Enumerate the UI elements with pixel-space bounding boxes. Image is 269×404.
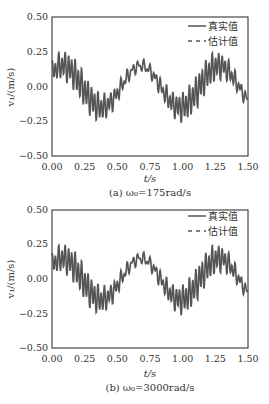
legend-entry-estimate: 估计值 [208, 35, 238, 47]
x-tick: 0.25 [74, 161, 95, 172]
x-tick: 1.25 [205, 353, 226, 364]
x-tick: 1.00 [172, 161, 193, 172]
legend-b: 真实值 估计值 [188, 210, 238, 237]
x-tick: 1.00 [172, 353, 193, 364]
x-tick: 0.75 [139, 353, 160, 364]
chart-panel-a: 0.50 0.25 0.00 −0.25 −0.50 0.00 0.25 0.5… [5, 11, 259, 198]
x-tick: 0.25 [74, 353, 95, 364]
caption-b: (b) ω₀=3000rad/s [105, 382, 194, 393]
y-ticks-b: 0.50 0.25 0.00 −0.25 −0.50 [19, 204, 48, 353]
series-line-a [52, 52, 248, 122]
y-tick: −0.50 [19, 342, 48, 353]
y-tick: −0.50 [19, 150, 48, 161]
y-axis-label-a: v₁/(m/s) [5, 68, 16, 108]
x-ticks-b: 0.00 0.25 0.50 0.75 1.00 1.25 1.50 [41, 353, 258, 364]
x-tick: 1.50 [237, 353, 258, 364]
y-tick: −0.25 [19, 115, 48, 126]
x-tick: 0.00 [41, 353, 62, 364]
x-tick: 0.50 [107, 353, 128, 364]
figure: 0.50 0.25 0.00 −0.25 −0.50 0.00 0.25 0.5… [0, 0, 269, 404]
chart-panel-b: 0.50 0.25 0.00 −0.25 −0.50 0.00 0.25 0.5… [5, 204, 259, 393]
legend-entry-estimate: 估计值 [208, 225, 238, 237]
x-ticks-a: 0.00 0.25 0.50 0.75 1.00 1.25 1.50 [41, 161, 258, 172]
caption-a: (a) ω₀=175rad/s [109, 187, 191, 198]
y-axis-label-b: v₁/(m/s) [5, 260, 16, 300]
legend-entry-true: 真实值 [208, 20, 238, 32]
series-line-b [52, 245, 248, 315]
legend-a: 真实值 估计值 [188, 20, 238, 47]
x-tick: 1.50 [237, 161, 258, 172]
y-tick: 0.25 [27, 46, 48, 57]
y-tick: 0.50 [27, 204, 48, 215]
y-tick: 0.25 [27, 238, 48, 249]
y-tick: −0.25 [19, 308, 48, 319]
x-tick: 0.75 [139, 161, 160, 172]
legend-entry-true: 真实值 [208, 210, 238, 222]
x-axis-label-a: t/s [144, 173, 157, 184]
y-tick: 0.50 [27, 11, 48, 22]
x-tick: 0.00 [41, 161, 62, 172]
x-tick: 0.50 [107, 161, 128, 172]
x-tick: 1.25 [205, 161, 226, 172]
y-tick: 0.00 [27, 273, 48, 284]
x-axis-label-b: t/s [144, 368, 157, 379]
y-tick: 0.00 [27, 81, 48, 92]
y-ticks-a: 0.50 0.25 0.00 −0.25 −0.50 [19, 11, 48, 161]
